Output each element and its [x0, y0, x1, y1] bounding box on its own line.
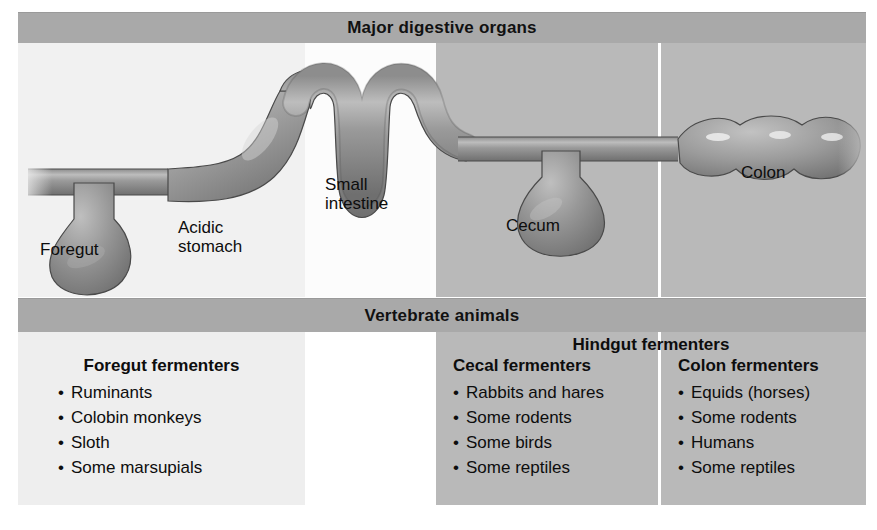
- list-item: Rabbits and hares: [453, 380, 604, 405]
- label-small-intestine: Small intestine: [325, 175, 388, 213]
- list-cecal-fermenters: Rabbits and hares Some rodents Some bird…: [453, 380, 604, 480]
- major-digestive-organs-banner: Major digestive organs: [18, 12, 866, 44]
- list-foregut-fermenters: Ruminants Colobin monkeys Sloth Some mar…: [58, 380, 202, 480]
- heading-colon-fermenters: Colon fermenters: [678, 356, 819, 376]
- list-item: Some marsupials: [58, 455, 202, 480]
- list-colon-fermenters: Equids (horses) Some rodents Humans Some…: [678, 380, 810, 480]
- digestive-tract-figure: Major digestive organs: [18, 12, 866, 505]
- banner-title-top: Major digestive organs: [347, 18, 537, 38]
- list-item: Some reptiles: [678, 455, 810, 480]
- list-item: Some birds: [453, 430, 604, 455]
- list-item: Ruminants: [58, 380, 202, 405]
- list-item: Some rodents: [678, 405, 810, 430]
- list-item: Some reptiles: [453, 455, 604, 480]
- list-item: Sloth: [58, 430, 202, 455]
- label-cecum: Cecum: [506, 216, 560, 235]
- table-column-blank: [305, 332, 436, 505]
- banner-title-mid: Vertebrate animals: [365, 306, 520, 326]
- label-colon: Colon: [741, 163, 785, 182]
- fermenter-table: Hindgut fermenters Foregut fermenters Ce…: [18, 332, 866, 505]
- digestive-tract-illustration: [18, 43, 866, 297]
- heading-cecal-fermenters: Cecal fermenters: [453, 356, 591, 376]
- list-item: Equids (horses): [678, 380, 810, 405]
- digestive-organs-diagram: Foregut Acidic stomach Small intestine C…: [18, 43, 866, 297]
- list-item: Colobin monkeys: [58, 405, 202, 430]
- label-foregut: Foregut: [40, 240, 99, 259]
- table-column-divider: [658, 332, 661, 505]
- list-item: Some rodents: [453, 405, 604, 430]
- list-item: Humans: [678, 430, 810, 455]
- heading-hindgut-fermenters: Hindgut fermenters: [436, 335, 866, 355]
- label-acidic-stomach: Acidic stomach: [178, 218, 242, 256]
- vertebrate-animals-banner: Vertebrate animals: [18, 298, 866, 333]
- heading-foregut-fermenters: Foregut fermenters: [18, 356, 305, 376]
